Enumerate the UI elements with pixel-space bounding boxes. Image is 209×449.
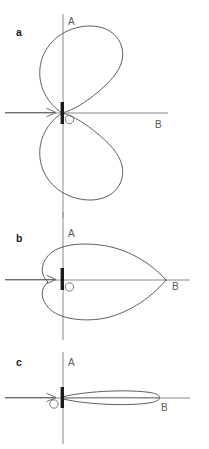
panel-c-axis-label-b: B bbox=[161, 402, 168, 413]
panel-c-slit-marker bbox=[61, 387, 64, 408]
figure-root: a A B O b A B bbox=[0, 0, 209, 449]
panel-b-incoming-arrow-icon bbox=[5, 276, 56, 284]
panel-a-slit-marker bbox=[61, 102, 64, 124]
panel-b: b A B O bbox=[5, 212, 190, 340]
panel-a-upper-lobe bbox=[40, 26, 123, 113]
panel-b-slit-marker bbox=[61, 268, 64, 290]
panel-a: a A B O bbox=[5, 14, 168, 218]
panel-label-b: b bbox=[16, 232, 22, 244]
panel-label-a: a bbox=[16, 26, 22, 38]
panel-label-c: c bbox=[16, 356, 22, 368]
panel-a-axis-label-b: B bbox=[155, 119, 162, 130]
panel-b-axis-label-b: B bbox=[172, 281, 179, 292]
panel-b-axis-label-a: A bbox=[68, 228, 75, 239]
panel-a-axis-label-a: A bbox=[68, 16, 75, 27]
panel-c-incoming-arrow-icon bbox=[5, 394, 56, 402]
panel-a-lower-lobe bbox=[40, 113, 123, 200]
diffraction-pattern-figure: a A B O b A B bbox=[0, 0, 209, 449]
panel-a-incoming-arrow-icon bbox=[5, 109, 56, 117]
panel-c-axis-label-a: A bbox=[68, 357, 75, 368]
panel-c: c A B O bbox=[5, 352, 190, 444]
